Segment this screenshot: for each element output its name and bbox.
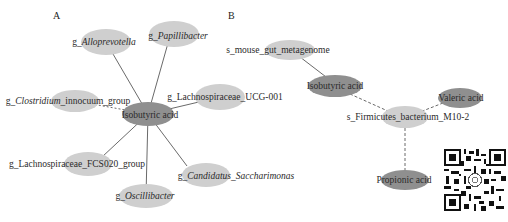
label-clostridium: g_Clostridium_innocuum_group <box>6 96 131 106</box>
label-propionic-acid: Propionic acid <box>376 175 431 185</box>
label-lachnospiraceae-fcs020: g_Lachnospiraceae_FCS020_group <box>9 159 145 169</box>
label-valeric-acid: Valeric acid <box>438 93 483 103</box>
edge-isobutyric-firmicutes <box>350 94 390 112</box>
label-papillibacter: g_Papillibacter <box>148 31 208 41</box>
panel-label-b: B <box>228 10 235 21</box>
panel-a-labels: g_Alloprevotella g_Papillibacter g_Clost… <box>6 31 295 201</box>
label-alloprevotella: g_Alloprevotella <box>72 37 136 47</box>
label-mouse-gut-metagenome: s_mouse_gut_metagenome <box>226 45 329 55</box>
label-oscillibacter: g_Oscillibacter <box>115 191 174 201</box>
label-isobutyric-acid-a: Isobutyric acid <box>122 110 179 120</box>
label-lachnospiraceae-ucg001: g_Lachnospiraceae_UCG-001 <box>167 92 283 102</box>
label-firmicutes-bacterium: s_Firmicutes_bacterium_M10-2 <box>347 112 470 122</box>
network-diagram: A B g_Alloprevotella g_Papillibacter g_C… <box>0 0 508 222</box>
qr-code <box>444 148 506 212</box>
label-saccharimonas: g_Candidatus_Saccharimonas <box>178 171 295 181</box>
label-isobutyric-acid-b: Isobutyric acid <box>307 81 364 91</box>
edge-oscillibacter <box>146 114 148 196</box>
panel-label-a: A <box>53 10 61 21</box>
